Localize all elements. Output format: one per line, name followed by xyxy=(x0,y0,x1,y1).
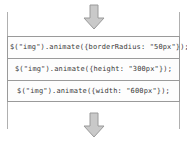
bottom-arrow-down-icon xyxy=(83,112,105,138)
top-arrow-down-icon xyxy=(83,4,105,30)
list-item[interactable]: $("img").animate({height: "300px"}); xyxy=(7,58,180,80)
animate-call-width: $("img").animate({width: "600px"}); xyxy=(17,87,170,96)
list-item[interactable]: $("img").animate({width: "600px"}); xyxy=(7,80,180,102)
animation-queue-list: $("img").animate({borderRadius: "50px"})… xyxy=(7,36,180,102)
animation-queue-diagram: $("img").animate({borderRadius: "50px"})… xyxy=(0,0,187,143)
animate-call-border-radius: $("img").animate({borderRadius: "50px"})… xyxy=(10,43,187,52)
list-item[interactable]: $("img").animate({borderRadius: "50px"})… xyxy=(7,36,180,58)
animate-call-height: $("img").animate({height: "300px"}); xyxy=(15,65,172,74)
